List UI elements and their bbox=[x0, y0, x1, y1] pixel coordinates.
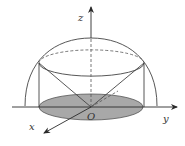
upper-ellipse-back bbox=[39, 50, 144, 63]
diagram-svg: z O y x bbox=[0, 0, 185, 146]
diagram: z O y x bbox=[0, 0, 185, 146]
z-axis-label: z bbox=[77, 12, 84, 23]
origin-label: O bbox=[87, 111, 95, 122]
x-axis-label: x bbox=[29, 121, 35, 132]
upper-ellipse-front bbox=[39, 63, 144, 76]
y-axis-label: y bbox=[162, 113, 169, 124]
